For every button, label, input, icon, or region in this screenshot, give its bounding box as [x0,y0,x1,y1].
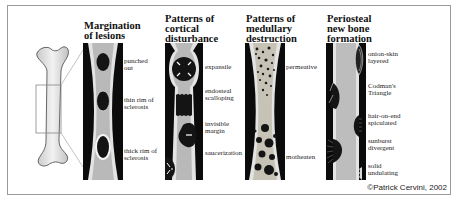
label-motheaten: motheaten [286,154,322,161]
label-sunburst: sunburst divergent [368,138,402,152]
panel-title-cortical: Patterns of cortical disturbance [165,14,217,44]
medullary-bone-image [245,43,285,180]
periosteal-bone-image [326,43,366,180]
label-onion-skin: onion-skin layered [368,51,402,65]
copyright-text: ©Patrick Cervini, 2002 [367,183,447,192]
thin-rim-lesion [97,91,110,111]
panel-cortical [165,43,203,180]
label-permeative: permeative [286,64,322,71]
panel-title-margination: Margination of lesions [84,21,144,41]
label-saucerization: saucerization [205,150,245,157]
label-hair-on-end: hair-on-end spiculated [368,113,404,127]
margination-bone-image [83,43,123,180]
label-punched-out: punched out [124,58,150,72]
panel-medullary [245,43,285,180]
label-codmans-triangle: Codman's Triangle [368,83,402,97]
endosteal-scalloping-lesion [176,94,192,116]
label-solid-undulating: solid undulating [368,163,402,177]
punched-out-lesion [97,53,110,71]
solid-undulating [359,167,362,180]
panel-periosteal [326,43,366,180]
femur-illustration [30,45,88,170]
cortical-bone-image [165,43,203,180]
panel-margination [83,43,123,180]
panel-title-medullary: Patterns of medullary destruction [246,14,298,44]
label-expansile: expansile [205,64,239,71]
panel-title-periosteal: Periosteal new bone formation [327,14,377,44]
label-thin-rim: thin rim of sclerosis [124,97,160,111]
label-thick-rim: thick rim of sclerosis [124,148,160,162]
thick-rim-lesion [96,135,110,159]
expansile-lesion [172,57,196,81]
label-invisible-margin: invisible margin [205,121,239,135]
label-endosteal-scalloping: endosteal scalloping [205,88,239,102]
